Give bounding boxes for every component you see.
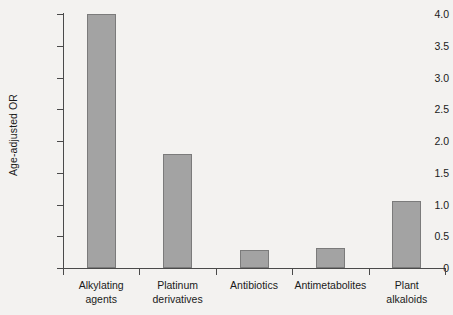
x-axis-tick — [292, 269, 293, 275]
bar — [240, 250, 269, 268]
x-axis-category-label-line: derivatives — [139, 293, 215, 307]
x-axis-category-label: Platinumderivatives — [139, 279, 215, 306]
y-axis-tick-label: 1.5 — [401, 167, 453, 179]
bar — [316, 248, 345, 268]
bar — [392, 201, 421, 268]
x-axis-tick — [216, 269, 217, 275]
y-axis-tick-label: 2.5 — [401, 103, 453, 115]
y-axis-tick — [57, 141, 63, 142]
bar — [87, 14, 116, 268]
y-axis-tick — [57, 173, 63, 174]
y-axis-tick — [57, 236, 63, 237]
x-axis-category-label: Alkylatingagents — [63, 279, 139, 306]
y-axis-line — [63, 13, 64, 269]
x-axis-category-label-line: alkaloids — [369, 293, 445, 307]
x-axis-category-label-line: agents — [63, 293, 139, 307]
y-axis-tick — [57, 205, 63, 206]
y-axis-tick — [57, 78, 63, 79]
bar — [163, 154, 192, 268]
y-axis-tick — [57, 109, 63, 110]
y-axis-tick — [57, 46, 63, 47]
x-axis-category-label-line: Antibiotics — [216, 279, 292, 293]
x-axis-category-label-line: Antimetabolites — [292, 279, 368, 293]
x-axis-category-label: Antibiotics — [216, 279, 292, 293]
y-axis-tick — [57, 14, 63, 15]
x-axis-line — [63, 268, 446, 269]
x-axis-category-label: Antimetabolites — [292, 279, 368, 293]
x-axis-category-label-line: Plant — [369, 279, 445, 293]
x-axis-category-label-line: Alkylating — [63, 279, 139, 293]
y-axis-tick-label: 4.0 — [401, 8, 453, 20]
x-axis-category-label: Plantalkaloids — [369, 279, 445, 306]
x-axis-tick — [445, 269, 446, 275]
x-axis-tick — [63, 269, 64, 275]
y-axis-tick-label: 2.0 — [401, 135, 453, 147]
x-axis-category-label-line: Platinum — [139, 279, 215, 293]
x-axis-tick — [369, 269, 370, 275]
plot-area: 00.51.01.52.02.53.03.54.0 Alkylatingagen… — [0, 0, 453, 315]
y-axis-tick-label: 3.5 — [401, 40, 453, 52]
x-axis-tick — [139, 269, 140, 275]
y-axis-tick-label: 3.0 — [401, 72, 453, 84]
bar-chart: Age-adjusted OR 00.51.01.52.02.53.03.54.… — [0, 0, 453, 315]
